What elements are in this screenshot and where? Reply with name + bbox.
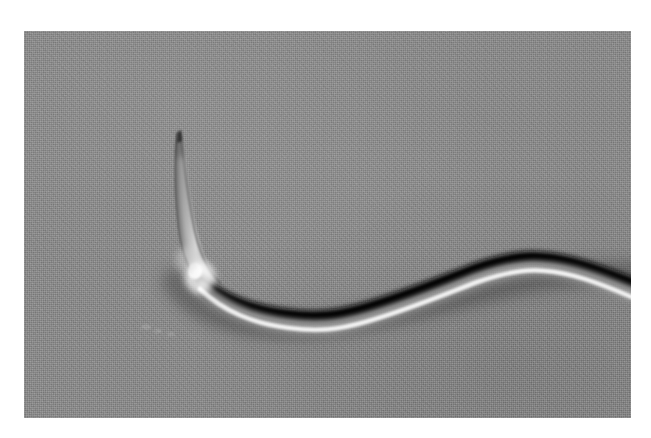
curved-metal-probe [24,31,631,418]
photograph-plate [24,31,631,418]
cloth-reflection-specks [132,290,175,336]
page-root: Close-up photograph of a curved metal de… [0,0,651,438]
